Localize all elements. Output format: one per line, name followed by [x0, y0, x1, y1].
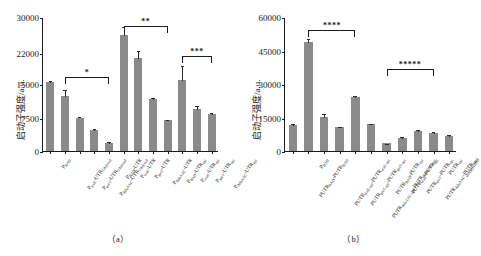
significance-bracket — [124, 26, 168, 33]
error-bar-cap — [181, 66, 185, 67]
significance-bracket — [387, 69, 434, 76]
error-bar-cap — [49, 81, 53, 82]
bar — [76, 118, 84, 152]
x-tick — [212, 151, 213, 154]
y-tick-label: 60000 — [259, 13, 282, 23]
error-bar-cap — [447, 135, 451, 136]
y-tick-label: 45000 — [259, 47, 282, 57]
significance-bracket — [65, 77, 109, 84]
x-tick — [50, 151, 51, 154]
error-bar-cap — [78, 117, 82, 118]
panel-a: 启动子强度/a.u. 07500150002200030000PBADParaE… — [0, 0, 236, 256]
bar — [90, 130, 98, 151]
significance-bracket — [182, 56, 211, 63]
error-bar-cap — [107, 142, 111, 143]
error-bar-cap — [353, 96, 357, 97]
panel-b: 启动子强度/a.u. 015000300004500060000PUTRBAD-… — [236, 0, 471, 256]
y-tick-label: 30000 — [17, 13, 40, 23]
bar — [208, 114, 216, 151]
x-tick — [293, 151, 294, 154]
y-tick — [282, 119, 285, 120]
error-bar-cap — [307, 39, 311, 40]
error-bar-cap — [416, 130, 420, 131]
significance-label: ** — [141, 17, 150, 26]
panel-caption-b: （b） — [236, 232, 471, 244]
plot-area-a: 07500150002200030000PBADParaE-UTR5'delet… — [42, 18, 218, 152]
x-tick — [371, 151, 372, 154]
error-bar-cap — [322, 114, 326, 115]
x-tick — [387, 151, 388, 154]
error-bar-cap — [400, 137, 404, 138]
bar — [46, 82, 54, 151]
y-tick-label: 15000 — [17, 80, 40, 90]
x-tick — [418, 151, 419, 154]
y-tick — [282, 18, 285, 19]
x-tick-label: PBAD — [318, 157, 329, 170]
error-bar-cap — [338, 127, 342, 128]
x-tick-label: PBAD — [60, 157, 71, 170]
x-tick — [138, 151, 139, 154]
error-bar-cap — [63, 90, 67, 91]
bar — [320, 117, 329, 151]
y-tick — [40, 54, 43, 55]
y-tick — [40, 152, 43, 153]
y-tick — [282, 85, 285, 86]
bar — [414, 131, 423, 151]
plot-area-b: 015000300004500060000PUTRBAD-PUTRBADPBAD… — [284, 18, 456, 152]
error-bar — [138, 51, 139, 59]
x-tick — [402, 151, 403, 154]
x-tick — [355, 151, 356, 154]
bar — [149, 99, 157, 151]
bar — [351, 97, 360, 151]
error-bar-cap — [137, 51, 141, 52]
bar — [178, 80, 186, 151]
significance-label: **** — [323, 21, 341, 30]
x-tick — [80, 151, 81, 154]
error-bar-cap — [151, 98, 155, 99]
x-tick — [197, 151, 198, 154]
bar — [61, 96, 69, 151]
error-bar-cap — [93, 129, 97, 130]
significance-bracket — [308, 30, 355, 37]
bar — [134, 58, 142, 151]
bar — [193, 109, 201, 151]
error-bar-cap — [369, 124, 373, 125]
y-tick-label: 15000 — [259, 114, 282, 124]
bar — [289, 125, 298, 151]
y-tick-label: 30000 — [259, 80, 282, 90]
x-tick — [308, 151, 309, 154]
x-tick — [109, 151, 110, 154]
bar — [304, 42, 313, 151]
x-tick — [94, 151, 95, 154]
x-tick — [449, 151, 450, 154]
bar — [398, 138, 407, 151]
y-tick-label: 0 — [35, 147, 40, 157]
bar — [367, 124, 376, 151]
x-tick — [182, 151, 183, 154]
x-tick — [153, 151, 154, 154]
x-tick — [124, 151, 125, 154]
error-bar-cap — [166, 120, 170, 121]
bar — [335, 127, 344, 151]
x-tick — [65, 151, 66, 154]
bar — [445, 136, 454, 151]
x-tick — [340, 151, 341, 154]
x-tick — [168, 151, 169, 154]
bar — [105, 143, 113, 151]
panel-caption-a: （a） — [0, 232, 236, 244]
y-tick-label: 22000 — [17, 49, 40, 59]
error-bar-cap — [432, 132, 436, 133]
y-tick — [282, 52, 285, 53]
y-tick — [40, 85, 43, 86]
significance-label: ***** — [399, 60, 422, 69]
x-tick — [324, 151, 325, 154]
error-bar-cap — [385, 144, 389, 145]
error-bar — [182, 66, 183, 82]
error-bar-cap — [291, 124, 295, 125]
error-bar — [65, 90, 66, 97]
significance-label: * — [85, 68, 90, 77]
bar — [429, 133, 438, 151]
significance-label: *** — [190, 47, 204, 56]
y-tick — [40, 18, 43, 19]
